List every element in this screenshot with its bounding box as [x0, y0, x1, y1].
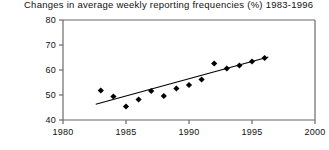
chart-plot-area: 405060708019801985199019952000 — [0, 0, 329, 150]
data-point-marker — [98, 87, 104, 93]
x-tick-label: 1990 — [179, 127, 200, 137]
data-point-marker — [262, 55, 268, 61]
y-tick-label: 70 — [46, 40, 56, 50]
trend-line — [96, 57, 269, 104]
data-point-marker — [199, 76, 205, 82]
data-point-marker — [236, 62, 242, 68]
y-tick-label: 40 — [46, 115, 56, 125]
x-tick-label: 2000 — [305, 127, 326, 137]
x-tick-label: 1985 — [116, 127, 137, 137]
data-point-marker — [224, 65, 230, 71]
chart-container: Changes in average weekly reporting freq… — [0, 0, 329, 150]
x-tick-label: 1980 — [53, 127, 74, 137]
data-point-marker — [211, 60, 217, 66]
data-point-marker — [161, 93, 167, 99]
y-tick-label: 50 — [46, 90, 56, 100]
y-tick-label: 60 — [46, 65, 56, 75]
data-point-marker — [186, 82, 192, 88]
y-tick-label: 80 — [46, 15, 56, 25]
x-tick-label: 1995 — [242, 127, 263, 137]
data-point-marker — [173, 85, 179, 91]
data-point-marker — [136, 96, 142, 102]
data-point-marker — [123, 103, 129, 109]
data-point-marker — [249, 58, 255, 64]
